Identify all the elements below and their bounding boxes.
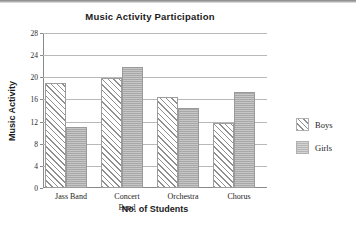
bar-group bbox=[99, 33, 155, 188]
chart-legend: BoysGirls bbox=[296, 118, 332, 164]
category-label-line1: Chorus bbox=[227, 192, 250, 201]
bar-boys[interactable] bbox=[45, 83, 66, 188]
bar-girls[interactable] bbox=[234, 92, 255, 188]
y-axis-tick-mark bbox=[40, 188, 43, 189]
y-axis-title-text: Music Activity bbox=[7, 80, 17, 140]
bar-group bbox=[211, 33, 267, 188]
x-axis-category-label: Chorus bbox=[202, 192, 276, 203]
bar-group bbox=[43, 33, 99, 188]
legend-item-boys[interactable]: Boys bbox=[296, 118, 332, 131]
bar-boys[interactable] bbox=[213, 123, 234, 188]
category-label-line1: Concert bbox=[114, 192, 139, 201]
category-label-line1: Orchestra bbox=[167, 192, 198, 201]
legend-swatch-girls-icon bbox=[296, 141, 309, 154]
legend-label: Boys bbox=[315, 120, 332, 130]
y-axis-title: Music Activity bbox=[6, 33, 18, 188]
bar-group bbox=[155, 33, 211, 188]
y-axis-tick-label: 24 bbox=[31, 51, 39, 60]
bar-girls[interactable] bbox=[66, 127, 87, 188]
bar-girls[interactable] bbox=[178, 108, 199, 188]
x-axis-title: No. of Students bbox=[43, 204, 267, 214]
y-axis-tick-label: 28 bbox=[31, 29, 39, 38]
legend-label: Girls bbox=[315, 143, 332, 153]
plot-area: 0481216202428 Jass BandConcertBandOrches… bbox=[43, 33, 267, 188]
legend-swatch-boys-icon bbox=[296, 118, 309, 131]
bar-boys[interactable] bbox=[157, 97, 178, 188]
y-axis-tick-label: 16 bbox=[31, 95, 39, 104]
y-axis-tick-label: 12 bbox=[31, 117, 39, 126]
chart-title: Music Activity Participation bbox=[0, 11, 300, 22]
legend-item-girls[interactable]: Girls bbox=[296, 141, 332, 154]
bar-boys[interactable] bbox=[101, 78, 122, 188]
y-axis-tick-label: 20 bbox=[31, 73, 39, 82]
y-axis-tick-label: 4 bbox=[34, 161, 38, 170]
category-label-line1: Jass Band bbox=[55, 192, 87, 201]
y-axis-tick-label: 8 bbox=[34, 139, 38, 148]
bar-chart-figure: Music Activity Participation Music Activ… bbox=[0, 0, 356, 239]
bar-girls[interactable] bbox=[122, 67, 143, 188]
